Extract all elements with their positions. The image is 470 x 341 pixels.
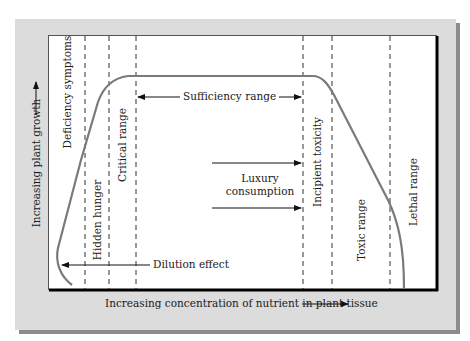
x-axis-label: Increasing concentration of nutrient in … bbox=[105, 297, 378, 309]
luxury-line-1: Luxury bbox=[225, 172, 295, 185]
zone-label-deficiency-symptoms: Deficiency symptoms bbox=[61, 36, 73, 149]
zone-label-critical-range: Critical range bbox=[116, 108, 128, 182]
luxury-line-2: consumption bbox=[225, 185, 295, 198]
y-axis-label: Increasing plant growth bbox=[30, 99, 42, 228]
zone-label-lethal-range: Lethal range bbox=[407, 158, 419, 226]
luxury-consumption-label: Luxury consumption bbox=[225, 172, 295, 198]
zone-label-hidden-hunger: Hidden hunger bbox=[91, 180, 103, 261]
zone-label-toxic-range: Toxic range bbox=[355, 199, 367, 261]
zone-label-incipient-toxicity: Incipient toxicity bbox=[311, 117, 323, 207]
sufficiency-range-label: Sufficiency range bbox=[180, 90, 279, 102]
dilution-effect-label: Dilution effect bbox=[150, 258, 232, 270]
